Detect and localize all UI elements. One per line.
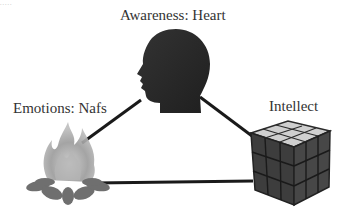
node-label-intellect: Intellect	[269, 99, 318, 114]
human-head-silhouette-icon	[137, 29, 210, 113]
edge-nafs-intellect	[95, 181, 253, 183]
rubiks-cube-icon	[251, 121, 330, 205]
campfire-icon	[25, 122, 110, 205]
node-label-heart: Awareness: Heart	[120, 8, 226, 23]
node-label-nafs: Emotions: Nafs	[13, 101, 107, 116]
edge-heart-intellect	[200, 97, 252, 136]
